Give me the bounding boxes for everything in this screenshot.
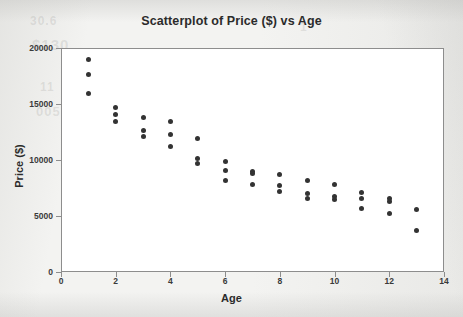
x-axis-title: Age xyxy=(0,292,463,304)
x-axis-tick-label: 2 xyxy=(113,276,118,286)
y-axis-tick-mark xyxy=(56,160,61,161)
x-axis-tick-label: 10 xyxy=(330,276,339,286)
y-axis-tick-labels: 05000100001500020000 xyxy=(0,0,53,317)
y-axis-tick-mark xyxy=(56,216,61,217)
y-axis-tick-mark xyxy=(56,48,61,49)
x-axis-tick-label: 8 xyxy=(277,276,282,286)
y-axis-tick-label: 20000 xyxy=(29,43,53,53)
x-axis-tick-label: 0 xyxy=(59,276,64,286)
x-axis-tick-label: 6 xyxy=(223,276,228,286)
x-axis-tick-label: 12 xyxy=(385,276,394,286)
screenshot-page: 30.6 $130 11 005 1 05 1 1 Scatterplot of… xyxy=(0,0,463,317)
scatterplot-figure: Scatterplot of Price ($) vs Age 05000100… xyxy=(0,0,463,317)
y-axis-tick-label: 15000 xyxy=(29,99,53,109)
x-axis-tick-label: 4 xyxy=(168,276,173,286)
x-axis-tick-label: 14 xyxy=(439,276,448,286)
y-axis-tick-label: 0 xyxy=(48,267,53,277)
y-axis-title: Price ($) xyxy=(13,116,25,216)
y-axis-tick-label: 10000 xyxy=(29,155,53,165)
y-axis-tick-label: 5000 xyxy=(34,211,53,221)
y-axis-tick-mark xyxy=(56,104,61,105)
axis-tick-marks xyxy=(0,0,463,317)
